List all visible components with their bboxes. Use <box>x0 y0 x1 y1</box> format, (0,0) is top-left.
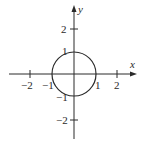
x-tick-label-1: 1 <box>95 79 101 91</box>
y-tick-label-neg2: −2 <box>56 114 68 126</box>
x-tick-label-neg2: −2 <box>21 79 33 91</box>
x-axis-label: x <box>129 58 135 70</box>
x-tick-label-neg1: −1 <box>42 79 54 91</box>
y-axis-arrow-icon <box>72 5 77 12</box>
y-tick-label-neg1: −1 <box>56 91 68 103</box>
y-tick-label-1: 1 <box>62 45 68 57</box>
y-tick-label-2: 2 <box>61 23 67 35</box>
x-axis-arrow-icon <box>130 72 137 77</box>
x-tick-label-2: 2 <box>114 79 120 91</box>
unit-circle-diagram: x y −2 −1 1 2 2 1 −1 −2 <box>0 0 144 146</box>
diagram-canvas: x y −2 −1 1 2 2 1 −1 −2 <box>0 0 144 146</box>
y-axis-label: y <box>77 3 83 15</box>
